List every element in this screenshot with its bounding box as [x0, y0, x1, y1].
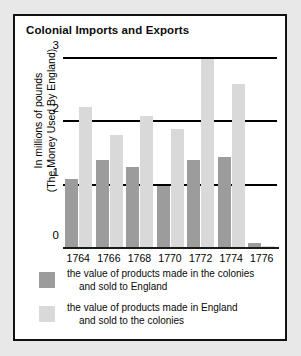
x-axis-tick-1768: 1768	[124, 252, 154, 264]
x-axis-tick-1776: 1776	[247, 252, 277, 264]
legend-swatch-1	[39, 272, 55, 288]
bar-group-1766	[96, 59, 123, 249]
legend-item-2: the value of products made in Englandand…	[27, 302, 277, 332]
y-axis-tick-3: 3	[19, 39, 59, 51]
x-axis-tick-1772: 1772	[186, 252, 216, 264]
bar-group-1764	[65, 59, 92, 249]
bar-1768-series1	[126, 167, 139, 249]
legend-label-2-line2: and sold to the colonies	[67, 315, 277, 328]
bar-group-1772	[187, 59, 214, 249]
legend-label-1: the value of products made in the coloni…	[67, 268, 277, 293]
bar-group-1768	[126, 59, 153, 249]
x-axis-tick-1764: 1764	[63, 252, 93, 264]
bar-1772-series2	[201, 59, 214, 249]
y-axis-tick-2: 2	[19, 102, 59, 114]
x-axis-tick-1766: 1766	[94, 252, 124, 264]
y-axis-tick-1: 1	[19, 166, 59, 178]
bar-1770-series2	[171, 129, 184, 249]
bar-group-1776	[248, 59, 275, 249]
bar-1770-series1	[157, 186, 170, 249]
legend-label-2: the value of products made in Englandand…	[67, 302, 277, 327]
legend-item-1: the value of products made in the coloni…	[27, 268, 277, 298]
legend-label-2-line1: the value of products made in England	[67, 302, 238, 313]
bar-1774-series1	[218, 157, 231, 249]
bar-1766-series2	[110, 135, 123, 249]
chart-legend: the value of products made in the coloni…	[27, 268, 277, 336]
x-axis-tick-1770: 1770	[155, 252, 185, 264]
y-axis-tick-labels: 0123	[15, 59, 59, 249]
plot-area	[63, 59, 277, 249]
bar-1764-series2	[79, 107, 92, 250]
chart-card: Colonial Imports and Exports In millions…	[13, 14, 287, 341]
legend-label-1-line1: the value of products made in the coloni…	[67, 268, 254, 279]
bar-group-1770	[157, 59, 184, 249]
legend-label-1-line2: and sold to England	[67, 281, 277, 294]
bar-1774-series2	[232, 84, 245, 249]
x-axis-tick-labels: 1764176617681770177217741776	[63, 252, 279, 268]
bar-1768-series2	[140, 116, 153, 249]
x-axis-tick-1774: 1774	[216, 252, 246, 264]
y-axis-tick-0: 0	[19, 229, 59, 241]
x-axis-line	[63, 247, 279, 249]
bar-1766-series1	[96, 160, 109, 249]
bar-group-1774	[218, 59, 245, 249]
bar-1772-series1	[187, 160, 200, 249]
bar-1764-series1	[65, 179, 78, 249]
legend-swatch-2	[39, 306, 55, 322]
